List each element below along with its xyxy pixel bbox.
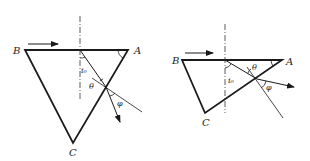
right-figure: B A C i₀ θ φ <box>171 24 294 128</box>
right-label-B: B <box>171 55 179 66</box>
right-label-i0: i₀ <box>228 76 235 85</box>
left-angle-arc-A <box>118 50 123 58</box>
right-face-normal <box>247 67 283 118</box>
right-exit-ray <box>257 79 294 87</box>
left-label-theta: θ <box>89 82 94 91</box>
left-prism-triangle <box>25 50 128 143</box>
prism-diagram: B A C i₀ θ φ B A C i₀ θ φ <box>0 0 310 161</box>
left-label-i0: i₀ <box>81 66 88 75</box>
left-label-B: B <box>12 45 20 56</box>
left-angle-arc-phi <box>110 93 115 96</box>
right-label-A: A <box>285 56 293 67</box>
right-label-C: C <box>202 117 210 128</box>
left-angle-arc-i0 <box>80 57 85 58</box>
left-label-A: A <box>133 45 141 56</box>
right-angle-arc-i0 <box>225 64 231 68</box>
left-label-C: C <box>69 147 77 158</box>
left-label-phi: φ <box>117 99 123 108</box>
right-label-phi: φ <box>266 83 272 92</box>
left-figure: B A C i₀ θ φ <box>12 16 142 158</box>
right-label-theta: θ <box>252 63 257 72</box>
